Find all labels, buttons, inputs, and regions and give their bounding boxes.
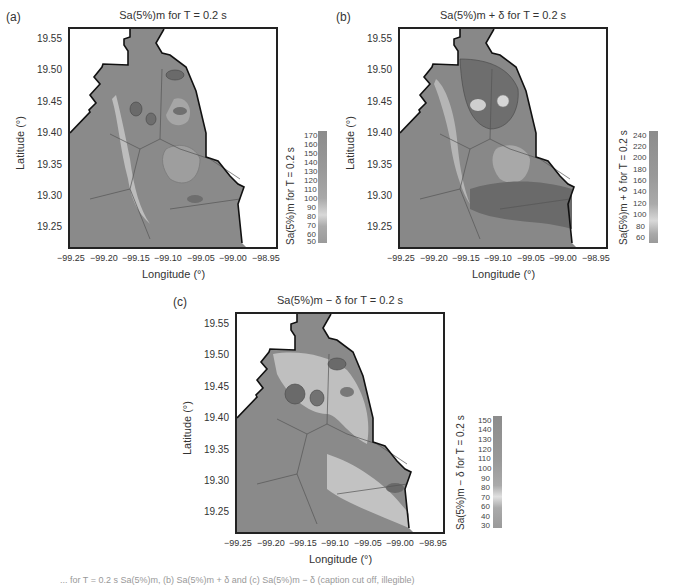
colorbar-tick: 80: [636, 222, 645, 231]
map-plot-area: [398, 27, 608, 249]
colorbar-tick: 140: [304, 158, 317, 167]
x-tick: −99.25: [224, 538, 252, 548]
panel-letter: (c): [173, 295, 187, 309]
contour-map: [400, 29, 606, 247]
colorbar: [649, 131, 658, 243]
colorbar-tick: 120: [633, 199, 646, 208]
y-tick: 19.40: [22, 127, 62, 138]
colorbar-tick: 150: [304, 149, 317, 158]
colorbar: [493, 416, 502, 528]
colorbar-tick: 150: [478, 416, 491, 425]
y-tick: 19.40: [189, 412, 229, 423]
panel-letter: (a): [6, 10, 21, 24]
colorbar-tick: 80: [481, 483, 490, 492]
y-tick: 19.25: [189, 506, 229, 517]
colorbar-tick: 70: [307, 221, 316, 230]
colorbar-tick: 160: [304, 140, 317, 149]
colorbar-tick: 30: [481, 521, 490, 530]
panel-a: (a) Sa(5%)m for T = 0.2 s 19.55 19.50 19…: [0, 0, 335, 285]
map-plot-area: [235, 312, 445, 534]
colorbar-tick: 110: [478, 454, 491, 463]
panel-title: Sa(5%)m − δ for T = 0.2 s: [235, 294, 445, 306]
colorbar-tick: 110: [304, 185, 317, 194]
y-tick: 19.45: [189, 381, 229, 392]
colorbar-label: Sa(5%)m − δ for T = 0.2 s: [455, 415, 466, 530]
y-tick: 19.35: [22, 159, 62, 170]
x-tick: −99.20: [420, 253, 448, 263]
colorbar-tick: 100: [304, 194, 317, 203]
x-tick: −98.95: [252, 253, 280, 263]
panel-title: Sa(5%)m + δ for T = 0.2 s: [398, 9, 608, 21]
figure-caption-fragment: ... for T = 0.2 s Sa(5%)m, (b) Sa(5%)m +…: [60, 575, 414, 585]
x-tick: −99.00: [549, 253, 577, 263]
colorbar-tick: 130: [304, 167, 317, 176]
x-tick: −99.10: [484, 253, 512, 263]
map-plot-area: [68, 27, 278, 249]
colorbar-tick: 170: [304, 131, 317, 140]
y-tick: 19.30: [189, 475, 229, 486]
colorbar-label: Sa(5%)m + δ for T = 0.2 s: [618, 130, 629, 245]
contour-map: [70, 29, 276, 247]
colorbar-tick: 200: [633, 153, 646, 162]
colorbar-tick: 80: [307, 212, 316, 221]
contour-map: [237, 314, 443, 532]
y-axis-label: Latitude (°): [344, 116, 356, 170]
x-tick: −99.05: [517, 253, 545, 263]
colorbar-tick: 140: [633, 187, 646, 196]
colorbar-tick: 100: [633, 210, 646, 219]
x-tick: −98.95: [582, 253, 610, 263]
y-axis-label: Latitude (°): [181, 401, 193, 455]
colorbar-tick: 100: [478, 464, 491, 473]
colorbar-tick: 50: [307, 237, 316, 246]
x-tick: −99.15: [452, 253, 480, 263]
y-tick: 19.30: [22, 190, 62, 201]
y-tick: 19.25: [22, 221, 62, 232]
colorbar-tick: 160: [633, 176, 646, 185]
y-tick: 19.35: [352, 159, 392, 170]
y-tick: 19.40: [352, 127, 392, 138]
colorbar-tick: 120: [478, 445, 491, 454]
x-tick: −99.05: [354, 538, 382, 548]
y-tick: 19.55: [22, 33, 62, 44]
x-axis-label: Longitude (°): [472, 268, 535, 280]
y-tick: 19.50: [189, 349, 229, 360]
y-tick: 19.45: [352, 96, 392, 107]
y-tick: 19.35: [189, 444, 229, 455]
colorbar-tick: 220: [633, 142, 646, 151]
colorbar-tick: 120: [304, 176, 317, 185]
x-tick: −99.25: [387, 253, 415, 263]
colorbar-tick: 90: [481, 474, 490, 483]
y-tick: 19.50: [22, 64, 62, 75]
colorbar: [318, 131, 327, 243]
x-tick: −99.00: [219, 253, 247, 263]
x-tick: −99.20: [257, 538, 285, 548]
y-tick: 19.25: [352, 221, 392, 232]
x-tick: −99.00: [386, 538, 414, 548]
colorbar-label: Sa(5%)m for T = 0.2 s: [285, 147, 296, 245]
x-axis-label: Longitude (°): [309, 553, 372, 565]
colorbar-tick: 240: [633, 131, 646, 140]
x-tick: −99.15: [289, 538, 317, 548]
panel-b: (b) Sa(5%)m + δ for T = 0.2 s 19.55 19.5…: [330, 0, 675, 285]
x-tick: −99.25: [57, 253, 85, 263]
x-tick: −99.05: [187, 253, 215, 263]
x-tick: −99.10: [154, 253, 182, 263]
y-tick: 19.55: [352, 33, 392, 44]
colorbar-tick: 140: [478, 425, 491, 434]
colorbar-tick: 60: [481, 502, 490, 511]
x-tick: −98.95: [419, 538, 447, 548]
colorbar-tick: 70: [481, 493, 490, 502]
panel-title: Sa(5%)m for T = 0.2 s: [68, 9, 278, 21]
y-tick: 19.50: [352, 64, 392, 75]
colorbar-tick: 130: [478, 435, 491, 444]
x-tick: −99.20: [90, 253, 118, 263]
y-tick: 19.45: [22, 96, 62, 107]
colorbar-tick: 40: [481, 512, 490, 521]
colorbar-tick: 60: [636, 233, 645, 242]
x-tick: −99.15: [122, 253, 150, 263]
colorbar-tick: 180: [633, 165, 646, 174]
colorbar-tick: 90: [307, 203, 316, 212]
x-axis-label: Longitude (°): [142, 268, 205, 280]
panel-c: (c) Sa(5%)m − δ for T = 0.2 s 19.55 19.5…: [167, 285, 512, 570]
y-tick: 19.55: [189, 318, 229, 329]
